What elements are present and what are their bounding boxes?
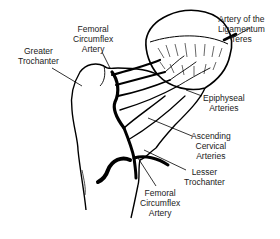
leader-femoral-circumflex-bottom: [138, 158, 156, 186]
label-ascending-cervical-arteries: Ascending Cervical Arteries: [191, 131, 231, 161]
label-femoral-circumflex-artery-top: Femoral Circumflex Artery: [73, 24, 113, 54]
leader-lesser-trochanter: [144, 150, 186, 170]
femur-blood-supply-diagram: Femoral Circumflex Artery Greater Trocha…: [0, 0, 280, 239]
label-epiphyseal-arteries: Epiphyseal Arteries: [203, 93, 245, 113]
label-femoral-circumflex-artery-bottom: Femoral Circumflex Artery: [140, 188, 180, 218]
leader-epiphyseal: [186, 90, 202, 96]
label-lesser-trochanter: Lesser Trochanter: [184, 167, 225, 187]
label-greater-trochanter: Greater Trochanter: [18, 46, 59, 66]
label-artery-of-ligamentum-teres: Artery of the Ligamentum Teres: [218, 14, 265, 44]
femur-outline: [71, 64, 205, 218]
leader-ascending-cervical: [148, 118, 192, 136]
